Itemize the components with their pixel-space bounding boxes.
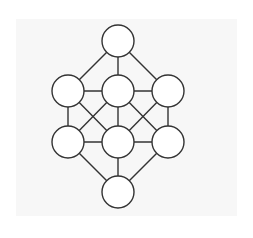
node-n1 xyxy=(52,75,84,107)
node-n4 xyxy=(52,126,84,158)
node-n0 xyxy=(102,25,134,57)
node-n6 xyxy=(152,126,184,158)
graph-edges xyxy=(68,41,168,192)
node-n2 xyxy=(102,75,134,107)
node-n7 xyxy=(102,176,134,208)
node-n3 xyxy=(152,75,184,107)
lattice-graph xyxy=(0,0,253,238)
node-n5 xyxy=(102,126,134,158)
